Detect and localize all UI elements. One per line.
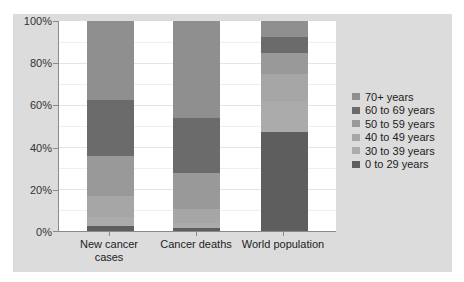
- bar-cancer-deaths: [173, 21, 220, 231]
- legend-label: 70+ years: [365, 91, 414, 103]
- y-tick: [53, 231, 58, 232]
- y-tick-label: 100%: [2, 15, 52, 27]
- legend-swatch: [352, 120, 360, 127]
- legend-item: 30 to 39 years: [352, 144, 435, 158]
- legend-label: 60 to 69 years: [365, 104, 435, 116]
- y-tick-label: 80%: [2, 57, 52, 69]
- x-tick: [283, 232, 284, 236]
- bar-segment: [173, 209, 220, 223]
- plot-area: [58, 21, 336, 232]
- y-tick: [53, 105, 58, 106]
- bar-segment: [173, 228, 220, 231]
- bar-segment: [173, 118, 220, 174]
- bar-segment: [261, 21, 308, 37]
- legend-label: 40 to 49 years: [365, 131, 435, 143]
- y-tick: [53, 190, 58, 191]
- legend-item: 70+ years: [352, 90, 435, 104]
- bar-segment: [261, 132, 308, 231]
- legend-swatch: [352, 93, 360, 100]
- bar-segment: [261, 74, 308, 101]
- legend-label: 0 to 29 years: [365, 158, 429, 170]
- legend-label: 50 to 59 years: [365, 118, 435, 130]
- legend-item: 50 to 59 years: [352, 117, 435, 131]
- legend-swatch: [352, 161, 360, 168]
- bar-segment: [87, 21, 134, 100]
- bar-segment: [87, 226, 134, 231]
- bar-segment: [87, 217, 134, 225]
- bar-segment: [173, 173, 220, 209]
- y-tick: [53, 148, 58, 149]
- legend-item: 40 to 49 years: [352, 131, 435, 145]
- bar-segment: [261, 37, 308, 53]
- legend-swatch: [352, 107, 360, 114]
- bar-segment: [173, 21, 220, 118]
- bar-segment: [87, 156, 134, 196]
- bar-segment: [261, 53, 308, 74]
- x-tick: [196, 232, 197, 236]
- y-tick: [53, 63, 58, 64]
- legend: 70+ years 60 to 69 years 50 to 59 years …: [352, 90, 435, 171]
- y-tick: [53, 21, 58, 22]
- legend-label: 30 to 39 years: [365, 145, 435, 157]
- bar-world-population: [261, 21, 308, 231]
- x-tick: [109, 232, 110, 236]
- legend-item: 60 to 69 years: [352, 104, 435, 118]
- bar-segment: [261, 101, 308, 133]
- y-tick-label: 0%: [2, 226, 52, 238]
- legend-swatch: [352, 134, 360, 141]
- bar-segment: [87, 196, 134, 217]
- x-label-world-population: World population: [228, 238, 338, 251]
- legend-item: 0 to 29 years: [352, 158, 435, 172]
- bar-new-cancer-cases: [87, 21, 134, 231]
- y-tick-label: 60%: [2, 99, 52, 111]
- bar-segment: [87, 100, 134, 157]
- y-tick-label: 20%: [2, 184, 52, 196]
- legend-swatch: [352, 147, 360, 154]
- y-tick-label: 40%: [2, 142, 52, 154]
- x-label-text: New cancer cases: [74, 238, 144, 264]
